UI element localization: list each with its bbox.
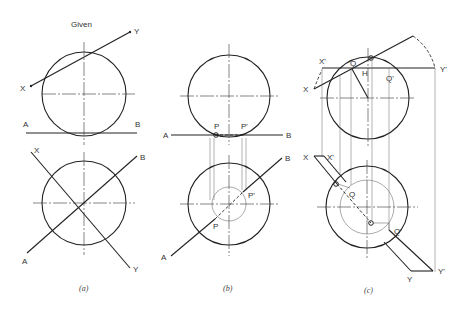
line-xy [31, 32, 130, 86]
line-xy-rotated [314, 36, 413, 89]
label-x-prime: X' [319, 57, 326, 66]
projection-lines [322, 60, 435, 272]
label-b: B [135, 120, 140, 129]
label-p: P [214, 122, 219, 131]
label-q-prime: Q' [394, 227, 402, 236]
rotation-arc [413, 36, 435, 68]
label-q: Q [350, 59, 356, 68]
label-a: A [23, 120, 29, 129]
label-y: Y [407, 275, 413, 284]
panel-a-bottom-view: X Y A B [22, 146, 145, 274]
label-p-prime: P' [241, 122, 248, 131]
label-x-prime: X' [327, 153, 334, 162]
label-b: B [286, 131, 291, 140]
label-x: X [303, 153, 309, 162]
panel-c-top-view: X X' Y' Q Q' H [303, 36, 447, 148]
orthographic-drawing: Given X Y A B X Y A B (a) [0, 0, 461, 312]
label-p-prime: P' [248, 191, 255, 200]
point-y-marker [129, 31, 131, 33]
projection-lines [210, 138, 246, 200]
panel-c: X X' Y' Q Q' H [303, 36, 447, 295]
label-b: B [140, 153, 145, 162]
given-title: Given [71, 20, 92, 29]
line-ab [27, 156, 137, 253]
panel-c-bottom-view: X X' Y Y' Q Q' [303, 153, 445, 284]
label-y: Y [133, 265, 139, 274]
label-y-prime: Y' [438, 267, 445, 276]
label-b: B [285, 154, 290, 163]
label-y-prime: Y' [440, 65, 447, 74]
line-xprime-yprime-lower [389, 230, 433, 271]
caption-b: (b) [223, 284, 233, 293]
label-a: A [22, 257, 28, 266]
label-p: P [213, 222, 218, 231]
label-q-prime: Q' [386, 74, 394, 83]
label-y: Y [134, 27, 140, 36]
caption-a: (a) [79, 284, 89, 293]
caption-c: (c) [364, 286, 373, 295]
panel-b: A B P P' A B P P' (b) [161, 44, 291, 293]
rotation-arc-x [314, 70, 322, 89]
panel-a: Given X Y A B X Y A B (a) [20, 20, 145, 293]
panel-b-bottom-view: A B P P' [161, 154, 290, 262]
label-a: A [161, 253, 167, 262]
panel-b-top-view: A B P P' [163, 44, 291, 145]
label-a: A [163, 131, 169, 140]
label-x: X [20, 84, 26, 93]
point-x-marker [30, 85, 32, 87]
label-x: X [34, 146, 40, 155]
line-ab-visible-upper [243, 158, 282, 192]
label-x: X [303, 85, 309, 94]
label-h: H [362, 69, 368, 78]
panel-a-top-view: X Y A B [20, 27, 140, 145]
q-leader [338, 184, 350, 188]
label-q: Q [349, 190, 355, 199]
line-xy [31, 152, 130, 268]
